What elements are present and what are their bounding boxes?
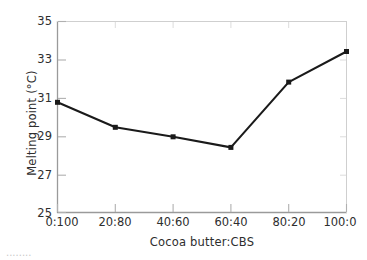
cropped-caption-strip: ........ [0, 252, 367, 260]
x-tick-label: 60:40 [214, 217, 247, 229]
x-tick-label: 100:0 [323, 217, 356, 229]
data-markers [55, 49, 349, 150]
x-tick-label: 80:20 [272, 217, 305, 229]
axis-frame [57, 21, 347, 213]
right-edge-tick-marks [340, 60, 346, 175]
x-tick-label: 20:80 [98, 217, 131, 229]
melting-point-line-chart: Melting point (°C) 35 33 31 29 27 25 [0, 0, 367, 260]
x-tick-label: 0:100 [45, 217, 78, 229]
x-axis-tick-labels: 0:100 20:80 40:60 60:40 80:20 100:0 [0, 217, 367, 233]
x-tick-label: 40:60 [156, 217, 189, 229]
y-tick-marks [58, 22, 66, 213]
cropped-caption-text: ........ [6, 252, 31, 258]
data-line-melting-point [58, 52, 347, 148]
x-axis-title: Cocoa butter:CBS [57, 235, 347, 249]
top-edge-tick-marks [115, 22, 288, 28]
x-tick-marks [58, 204, 347, 212]
